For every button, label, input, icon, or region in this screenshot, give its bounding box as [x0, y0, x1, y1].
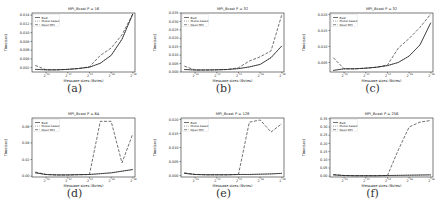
svg-text:10: 10 — [196, 73, 200, 76]
svg-text:0.00: 0.00 — [320, 174, 328, 178]
svg-text:0.15: 0.15 — [320, 150, 328, 154]
svg-text:0.015: 0.015 — [169, 45, 179, 49]
legend: BestModel-basedOpen MPI — [34, 120, 60, 132]
svg-text:Time(sec): Time(sec) — [4, 33, 8, 52]
svg-text:12: 12 — [68, 178, 72, 181]
svg-text:10: 10 — [47, 178, 51, 181]
svg-text:14: 14 — [239, 178, 243, 181]
subplot-b: MPI_Bcast P = 320.0000.0050.0100.0150.02… — [149, 0, 298, 105]
svg-text:0.02: 0.02 — [22, 158, 30, 162]
line-chart: MPI_Bcast P = 320.0000.0050.0100.0150.02… — [149, 0, 298, 82]
svg-text:2: 2 — [342, 179, 344, 183]
line-chart: MPI_Bcast P = 640.000.020.040.0621021221… — [0, 105, 149, 187]
svg-text:14: 14 — [90, 73, 94, 76]
svg-text:10: 10 — [196, 178, 200, 181]
subplot-caption: (c) — [298, 82, 447, 95]
svg-text:Open MPI: Open MPI — [340, 128, 353, 132]
svg-text:2: 2 — [428, 74, 430, 78]
line-chart: MPI_Bcast P = 320.0050.0100.0150.0202102… — [298, 0, 447, 82]
svg-text:Time(sec): Time(sec) — [302, 33, 306, 52]
svg-text:0.010: 0.010 — [318, 45, 328, 49]
chart-title: MPI_Bcast P = 32 — [366, 7, 397, 11]
svg-text:2: 2 — [65, 179, 67, 183]
svg-text:0.035: 0.035 — [169, 11, 179, 15]
svg-text:0.008: 0.008 — [20, 40, 30, 44]
subplot-caption: (e) — [149, 187, 298, 200]
line-chart: MPI_Bcast P = 160.0020.0040.0060.0080.01… — [0, 0, 149, 82]
line-chart: MPI_Bcast P = 2560.000.050.100.150.200.2… — [298, 105, 447, 187]
chart-title: MPI_Bcast P = 32 — [217, 7, 248, 11]
subplot-caption: (b) — [149, 82, 298, 95]
svg-text:0.010: 0.010 — [169, 146, 179, 150]
svg-text:2: 2 — [214, 74, 216, 78]
svg-text:0.030: 0.030 — [169, 20, 179, 24]
svg-text:Open MPI: Open MPI — [340, 23, 353, 27]
svg-text:0.10: 0.10 — [320, 158, 328, 162]
svg-text:2: 2 — [65, 74, 67, 78]
svg-text:12: 12 — [366, 178, 370, 181]
svg-text:2: 2 — [342, 74, 344, 78]
svg-text:0.006: 0.006 — [20, 48, 30, 52]
svg-text:10: 10 — [47, 73, 51, 76]
svg-text:2: 2 — [236, 179, 238, 183]
svg-text:2: 2 — [193, 74, 195, 78]
legend: BestModel-basedOpen MPI — [332, 120, 358, 132]
svg-text:Open MPI: Open MPI — [42, 128, 55, 132]
subplot-d: MPI_Bcast P = 640.000.020.040.0621021221… — [0, 105, 149, 210]
svg-text:0.30: 0.30 — [320, 125, 328, 129]
svg-text:2: 2 — [385, 74, 387, 78]
svg-text:16: 16 — [112, 73, 116, 76]
svg-text:0.020: 0.020 — [318, 13, 328, 17]
svg-text:0.00: 0.00 — [22, 174, 30, 178]
subplot-c: MPI_Bcast P = 320.0050.0100.0150.0202102… — [298, 0, 447, 105]
svg-text:12: 12 — [217, 73, 221, 76]
svg-text:2: 2 — [279, 179, 281, 183]
legend: BestModel-basedOpen MPI — [183, 15, 209, 27]
svg-text:16: 16 — [261, 178, 265, 181]
svg-text:0.25: 0.25 — [320, 133, 328, 137]
svg-text:18: 18 — [282, 73, 286, 76]
svg-text:2: 2 — [258, 179, 260, 183]
svg-text:0.004: 0.004 — [20, 57, 30, 61]
svg-text:12: 12 — [366, 73, 370, 76]
svg-text:2: 2 — [44, 74, 46, 78]
svg-text:16: 16 — [410, 178, 414, 181]
svg-text:0.025: 0.025 — [169, 28, 179, 32]
svg-text:0.000: 0.000 — [169, 70, 179, 74]
svg-text:0.005: 0.005 — [169, 160, 179, 164]
subplot-caption: (f) — [298, 187, 447, 200]
svg-text:2: 2 — [87, 179, 89, 183]
svg-text:0.020: 0.020 — [169, 36, 179, 40]
svg-text:0.005: 0.005 — [169, 62, 179, 66]
svg-text:0.002: 0.002 — [20, 66, 30, 70]
svg-text:14: 14 — [388, 73, 392, 76]
svg-text:0.20: 0.20 — [320, 142, 328, 146]
svg-text:0.010: 0.010 — [169, 53, 179, 57]
subplot-caption: (d) — [0, 187, 149, 200]
svg-text:2: 2 — [363, 74, 365, 78]
svg-text:0.35: 0.35 — [320, 117, 328, 121]
svg-text:0.012: 0.012 — [20, 22, 30, 26]
svg-text:Open MPI: Open MPI — [42, 23, 55, 27]
svg-text:2: 2 — [130, 179, 132, 183]
svg-text:18: 18 — [133, 73, 137, 76]
svg-text:18: 18 — [133, 178, 137, 181]
svg-text:0.04: 0.04 — [22, 141, 30, 145]
svg-text:2: 2 — [87, 74, 89, 78]
svg-text:14: 14 — [90, 178, 94, 181]
chart-title: MPI_Bcast P = 64 — [68, 112, 100, 116]
chart-title: MPI_Bcast P = 16 — [68, 7, 100, 11]
subplot-caption: (a) — [0, 82, 149, 95]
svg-text:16: 16 — [261, 73, 265, 76]
svg-text:0.015: 0.015 — [318, 29, 328, 33]
svg-text:16: 16 — [112, 178, 116, 181]
svg-text:2: 2 — [109, 179, 111, 183]
svg-text:0.014: 0.014 — [20, 13, 30, 17]
svg-text:Open MPI: Open MPI — [191, 23, 204, 27]
line-chart: MPI_Bcast P = 1280.0000.0050.0100.0150.0… — [149, 105, 298, 187]
svg-text:2: 2 — [407, 179, 409, 183]
svg-text:0.020: 0.020 — [169, 118, 179, 122]
legend: BestModel-basedOpen MPI — [183, 120, 209, 132]
svg-text:2: 2 — [193, 179, 195, 183]
svg-text:16: 16 — [410, 73, 414, 76]
